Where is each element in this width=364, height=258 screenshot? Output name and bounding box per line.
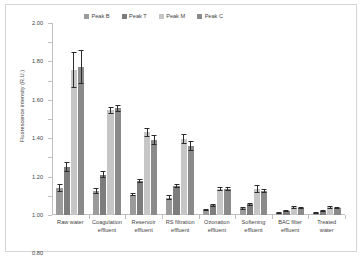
error-bar-cap-bottom <box>188 150 193 151</box>
error-bar-cap-bottom <box>247 205 252 206</box>
error-bar-cap-bottom <box>335 208 340 209</box>
error-bar <box>145 128 150 137</box>
error-bar-cap-bottom <box>328 208 333 209</box>
error-bar <box>115 105 120 112</box>
error-bar-cap-bottom <box>79 83 84 84</box>
bar[interactable] <box>181 139 187 215</box>
bar[interactable] <box>224 189 230 215</box>
bar[interactable] <box>188 146 194 215</box>
bar-slot <box>93 23 100 215</box>
x-axis-labels: Raw waterCoagulationeffluentReservoireff… <box>52 218 345 254</box>
error-bar <box>313 212 318 214</box>
bar-slot <box>114 23 121 215</box>
x-axis-label-line: Raw water <box>52 218 89 226</box>
error-bar <box>247 203 252 206</box>
error-bar <box>225 187 230 191</box>
error-bar-cap-top <box>137 179 142 180</box>
bar[interactable] <box>261 191 267 215</box>
error-bar-cap-bottom <box>255 192 260 193</box>
error-bar-cap-top <box>71 52 76 53</box>
bar[interactable] <box>64 167 70 215</box>
error-bar-cap-top <box>108 107 113 108</box>
error-bar-cap-top <box>240 207 245 208</box>
x-axis-label: Raw water <box>52 218 89 226</box>
error-bar-cap-bottom <box>277 213 282 214</box>
bar[interactable] <box>144 132 150 215</box>
bar-slot <box>210 23 217 215</box>
bar[interactable] <box>166 198 172 215</box>
error-bar <box>291 206 296 209</box>
bar[interactable] <box>151 140 157 215</box>
error-bar-cap-bottom <box>108 113 113 114</box>
error-bar-cap-top <box>174 184 179 185</box>
bar[interactable] <box>71 70 77 215</box>
plot-inner: 0.000.200.400.600.801.001.201.401.601.80… <box>52 23 345 215</box>
legend-item-peak-c[interactable]: Peak C <box>197 13 223 19</box>
x-axis-label-line: effluent <box>199 226 236 234</box>
bar[interactable] <box>115 108 121 215</box>
bar-slot <box>144 23 151 215</box>
bar[interactable] <box>93 191 99 215</box>
error-bar-cap-bottom <box>94 193 99 194</box>
error-bar-cap-top <box>79 50 84 51</box>
legend-item-peak-t[interactable]: Peak T <box>122 13 147 19</box>
error-bar-cap-top <box>101 171 106 172</box>
bar-group <box>93 23 122 215</box>
x-axis-tick <box>345 215 346 219</box>
bar-slot <box>107 23 114 215</box>
y-axis-tick-label: 2.00 <box>32 20 43 26</box>
error-bar-cap-bottom <box>71 87 76 88</box>
y-axis-tick: 0.80 <box>48 138 52 139</box>
error-bar-cap-bottom <box>57 191 62 192</box>
y-axis-tick: 1.80 <box>48 42 52 43</box>
x-axis-label: RS filtrationeffluent <box>162 218 199 234</box>
bar-slot <box>187 23 194 215</box>
bar-slot <box>319 23 326 215</box>
error-bar-cap-bottom <box>101 177 106 178</box>
legend-label: Peak M <box>166 13 185 19</box>
y-axis-tick-label: 1.00 <box>32 212 43 218</box>
bar-slot <box>334 23 341 215</box>
y-axis-tick-label: 1.80 <box>32 58 43 64</box>
error-bar <box>174 184 179 188</box>
bar-slot <box>180 23 187 215</box>
legend-label: Peak C <box>205 13 223 19</box>
error-bar-cap-bottom <box>225 190 230 191</box>
legend-label: Peak T <box>129 13 147 19</box>
bar[interactable] <box>217 189 223 215</box>
error-bar <box>71 52 76 88</box>
error-bar-cap-top <box>247 203 252 204</box>
x-axis-label-line: Treated <box>308 218 345 226</box>
error-bar-cap-top <box>255 185 260 186</box>
bar[interactable] <box>78 67 84 215</box>
error-bar-cap-bottom <box>313 213 318 214</box>
x-axis-label-line: effluent <box>235 226 272 234</box>
bar-slot <box>70 23 77 215</box>
bar-slot <box>173 23 180 215</box>
legend-item-peak-m[interactable]: Peak M <box>159 13 185 19</box>
bar-slot <box>151 23 158 215</box>
bar[interactable] <box>137 181 143 215</box>
y-axis-tick: 0.60 <box>48 157 52 158</box>
x-axis-label-line: effluent <box>89 226 126 234</box>
bar[interactable] <box>107 110 113 215</box>
y-axis-title: Fluorescence intensity (R.U.) <box>19 44 25 168</box>
bar-slot <box>283 23 290 215</box>
error-bar-cap-bottom <box>262 192 267 193</box>
bar-slot <box>253 23 260 215</box>
error-bar-cap-bottom <box>240 209 245 210</box>
error-bar-cap-bottom <box>211 206 216 207</box>
y-axis-tick: 0.20 <box>48 196 52 197</box>
error-bar <box>108 107 113 114</box>
error-bar <box>64 162 69 173</box>
bar[interactable] <box>173 186 179 215</box>
bar[interactable] <box>130 195 136 215</box>
error-bar <box>79 50 84 84</box>
error-bar-cap-bottom <box>204 210 209 211</box>
y-axis-tick: 2.00 <box>48 23 52 24</box>
legend-label: Peak B <box>92 13 110 19</box>
legend-item-peak-b[interactable]: Peak B <box>84 13 110 19</box>
bar[interactable] <box>100 175 106 215</box>
error-bar-cap-bottom <box>291 208 296 209</box>
bar-slot <box>77 23 84 215</box>
